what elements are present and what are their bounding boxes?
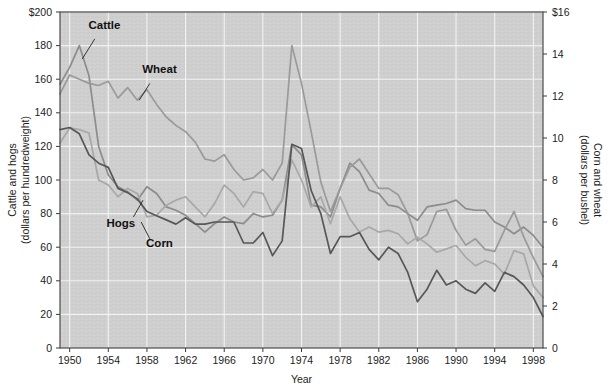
- series-label-cattle: Cattle: [88, 19, 120, 31]
- y-left-tick-label: 0: [46, 342, 52, 354]
- series-label-hogs: Hogs: [106, 217, 135, 229]
- y-right-axis-title-line2: (dollars per bushel): [579, 135, 591, 225]
- y-right-tick-label: $16: [552, 6, 570, 18]
- x-tick-label: 1978: [328, 354, 352, 366]
- x-tick-label: 1958: [135, 354, 159, 366]
- x-tick-label: 1950: [58, 354, 82, 366]
- price-trends-line-chart: 1950195419581962196619701974197819821986…: [0, 0, 608, 385]
- x-tick-label: 1986: [406, 354, 430, 366]
- y-right-tick-label: 2: [552, 300, 558, 312]
- y-left-tick-label: 40: [40, 274, 52, 286]
- x-tick-label: 1966: [213, 354, 237, 366]
- y-right-tick-label: 0: [552, 342, 558, 354]
- x-tick-label: 1970: [251, 354, 275, 366]
- y-right-tick-label: 12: [552, 90, 564, 102]
- x-tick-label: 1990: [444, 354, 468, 366]
- series-label-wheat: Wheat: [142, 63, 177, 75]
- y-left-tick-label: 20: [40, 308, 52, 320]
- y-right-tick-label: 10: [552, 132, 564, 144]
- x-tick-label: 1974: [290, 354, 314, 366]
- x-tick-label: 1954: [97, 354, 121, 366]
- y-left-tick-label: $200: [29, 6, 53, 18]
- y-right-tick-label: 6: [552, 216, 558, 228]
- y-left-axis-title-line2: (dollars per hundredweight): [19, 116, 31, 244]
- y-left-tick-label: 80: [40, 207, 52, 219]
- y-right-axis-title-line1: Corn and wheat: [592, 143, 604, 217]
- y-left-tick-label: 100: [34, 174, 52, 186]
- y-left-tick-label: 140: [34, 106, 52, 118]
- series-label-corn: Corn: [146, 237, 173, 249]
- y-right-tick-label: 4: [552, 258, 558, 270]
- y-left-axis-title-line1: Cattle and hogs: [6, 143, 18, 217]
- x-tick-label: 1962: [174, 354, 198, 366]
- x-tick-label: 1998: [522, 354, 546, 366]
- y-right-tick-label: 8: [552, 174, 558, 186]
- y-left-tick-label: 160: [34, 73, 52, 85]
- y-left-tick-label: 60: [40, 241, 52, 253]
- x-axis-title: Year: [291, 373, 313, 385]
- y-left-tick-label: 180: [34, 39, 52, 51]
- x-tick-label: 1994: [483, 354, 507, 366]
- y-right-tick-label: 14: [552, 48, 564, 60]
- x-tick-label: 1982: [367, 354, 391, 366]
- y-left-tick-label: 120: [34, 140, 52, 152]
